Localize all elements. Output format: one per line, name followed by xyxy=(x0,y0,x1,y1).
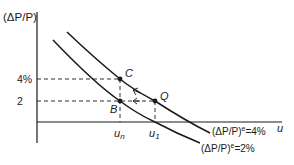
point-c xyxy=(118,77,123,82)
curve-label-4pct: (ΔP/P)e=4% xyxy=(212,125,266,137)
point-q-label: Q xyxy=(160,90,169,102)
point-c-label: C xyxy=(125,67,133,79)
arrow-q-to-b-icon xyxy=(133,98,140,104)
y-tick-4pct: 4% xyxy=(17,73,32,85)
x-axis-label: u xyxy=(277,122,283,134)
y-tick-2: 2 xyxy=(17,95,23,107)
curve-expected-4pct xyxy=(67,32,210,133)
point-b xyxy=(118,99,123,104)
point-q xyxy=(153,99,158,104)
phillips-curve-diagram: (ΔP/P) 4% 2 C B Q un u1 u (ΔP/P)e=4% (ΔP… xyxy=(0,0,294,165)
x-tick-un: un xyxy=(114,127,125,141)
point-b-label: B xyxy=(110,103,117,115)
x-tick-u1: u1 xyxy=(149,127,160,141)
curve-expected-2pct xyxy=(53,40,200,143)
curve-label-2pct: (ΔP/P)e=2% xyxy=(201,142,255,154)
y-axis-label: (ΔP/P) xyxy=(3,11,37,23)
